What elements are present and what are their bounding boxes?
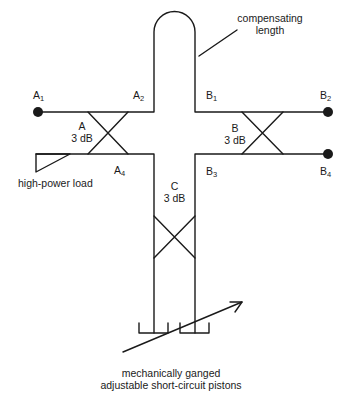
port-label-a4: A4 [114,164,125,180]
port-b2-dot [323,107,333,117]
coupler-a-name: A [62,120,102,132]
high-power-load-label: high-power load [18,177,93,189]
port-a1-dot [33,107,43,117]
coupler-b-label: B 3 dB [215,122,255,146]
coupler-b-name: B [215,122,255,134]
coupler-c-cross [154,216,195,258]
port-label-b3: B3 [206,165,217,181]
compensating-line1: compensating [228,12,312,24]
pistons-label: mechanically ganged adjustable short-cir… [80,367,262,391]
port-b4-dot [323,149,333,159]
compensating-length-label: compensating length [228,12,312,36]
coupler-a-rating: 3 dB [62,132,102,144]
port-label-b4: B4 [320,165,331,181]
pistons-line2: adjustable short-circuit pistons [80,379,262,391]
port-label-a2: A2 [133,89,144,105]
pistons-line1: mechanically ganged [80,367,262,379]
coupler-a-label: A 3 dB [62,120,102,144]
coupler-b-rating: 3 dB [215,134,255,146]
port-label-b2: B2 [320,89,331,105]
port-label-a1: A1 [33,89,44,105]
compensating-line2: length [228,24,312,36]
coupler-c-rating: 3 dB [154,192,195,204]
coupler-c-label: C 3 dB [154,180,195,204]
port-label-b1: B1 [206,89,217,105]
ganged-arrow-shaft [123,302,242,352]
coupler-c-name: C [154,180,195,192]
high-power-load-triangle [36,154,70,172]
